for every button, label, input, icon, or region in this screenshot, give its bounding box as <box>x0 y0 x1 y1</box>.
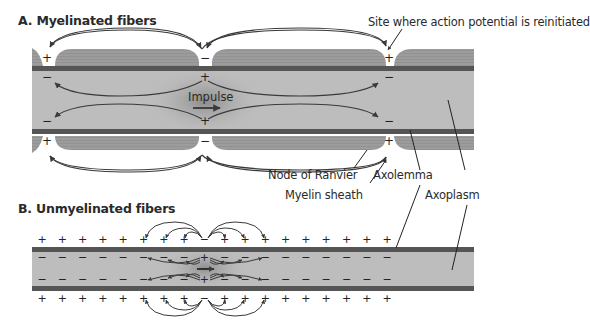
charge-minus: − <box>98 251 107 264</box>
charge-plus: + <box>322 292 331 305</box>
charge-plus: + <box>42 134 52 148</box>
node-leader <box>354 150 367 168</box>
charge-minus: − <box>362 273 371 286</box>
charge-plus: + <box>220 292 229 305</box>
charge-plus: + <box>78 233 87 246</box>
impulse-label: Impulse <box>188 90 233 104</box>
charge-plus: + <box>382 233 391 246</box>
charge-plus: + <box>200 251 209 264</box>
charge-minus: − <box>139 273 148 286</box>
charge-minus: − <box>281 251 290 264</box>
charge-plus: + <box>42 51 52 65</box>
charge-minus: − <box>322 273 331 286</box>
charge-plus: + <box>78 292 87 305</box>
charge-plus: + <box>58 233 67 246</box>
myelin-segment-1-bottom <box>55 136 199 150</box>
site-leader <box>388 29 402 50</box>
charge-minus: − <box>58 273 67 286</box>
node-of-ranvier-label: Node of Ranvier <box>268 168 357 182</box>
charge-plus: + <box>200 114 210 128</box>
charge-plus: + <box>281 233 290 246</box>
charge-minus: − <box>159 273 168 286</box>
charge-plus: + <box>362 292 371 305</box>
charge-minus: − <box>342 251 351 264</box>
myelin-segment-2-top <box>212 49 386 66</box>
charge-plus: + <box>384 134 394 148</box>
charge-minus: − <box>42 114 52 128</box>
charge-minus: − <box>37 251 46 264</box>
axolemma-top-a <box>32 66 474 71</box>
axolemma-bottom-a <box>32 129 474 134</box>
charge-plus: + <box>159 233 168 246</box>
charge-plus: + <box>342 233 351 246</box>
charge-plus: + <box>362 233 371 246</box>
charge-minus: − <box>98 273 107 286</box>
charge-plus: + <box>200 273 209 286</box>
charge-plus: + <box>119 233 128 246</box>
charge-minus: − <box>139 251 148 264</box>
charge-minus: − <box>384 114 394 128</box>
charge-minus: − <box>119 273 128 286</box>
charge-minus: − <box>384 70 394 84</box>
charge-minus: − <box>281 273 290 286</box>
charge-minus: − <box>78 251 87 264</box>
axolemma-bottom-b <box>32 286 474 291</box>
charge-plus: + <box>261 292 270 305</box>
charge-minus: − <box>301 273 310 286</box>
charge-minus: − <box>200 233 209 246</box>
charge-plus: + <box>159 292 168 305</box>
charge-plus: + <box>261 233 270 246</box>
myelinated-fiber <box>32 48 474 153</box>
charge-minus: − <box>342 273 351 286</box>
myelin-segment-2-bottom <box>212 136 386 150</box>
charge-plus: + <box>98 233 107 246</box>
axolemma-leader-b <box>396 185 420 248</box>
charge-minus: − <box>119 251 128 264</box>
charge-plus: + <box>119 292 128 305</box>
charge-minus: − <box>382 251 391 264</box>
myelin-sheath-label: Myelin sheath <box>285 188 363 202</box>
charge-minus: − <box>42 70 52 84</box>
charge-plus: + <box>179 233 188 246</box>
charge-minus: − <box>58 251 67 264</box>
charge-minus: − <box>362 251 371 264</box>
charge-plus: + <box>200 70 210 84</box>
charge-minus: − <box>240 273 249 286</box>
axoplasm-label: Axoplasm <box>425 188 480 202</box>
charge-plus: + <box>58 292 67 305</box>
charge-plus: + <box>322 233 331 246</box>
charge-plus: + <box>220 233 229 246</box>
myelin-segment-3-bottom <box>394 136 474 150</box>
charge-minus: − <box>37 273 46 286</box>
charge-plus: + <box>301 292 310 305</box>
myelin-segment-3-top <box>394 49 474 66</box>
charge-plus: + <box>179 292 188 305</box>
charge-plus: + <box>342 292 351 305</box>
charge-minus: − <box>261 251 270 264</box>
charge-minus: − <box>382 273 391 286</box>
charge-minus: − <box>200 134 210 148</box>
myelin-segment-1-top <box>55 49 199 66</box>
axolemma-label: Axolemma <box>373 168 432 182</box>
charge-plus: + <box>382 292 391 305</box>
charge-minus: − <box>200 51 210 65</box>
site-label: Site where action potential is reinitiat… <box>368 15 590 29</box>
charge-minus: − <box>322 251 331 264</box>
charge-plus: + <box>301 233 310 246</box>
charge-minus: − <box>78 273 87 286</box>
charge-minus: − <box>200 292 209 305</box>
charge-plus: + <box>384 51 394 65</box>
charge-plus: + <box>98 292 107 305</box>
charge-plus: + <box>37 292 46 305</box>
charge-plus: + <box>37 233 46 246</box>
charge-plus: + <box>281 292 290 305</box>
charge-minus: − <box>301 251 310 264</box>
